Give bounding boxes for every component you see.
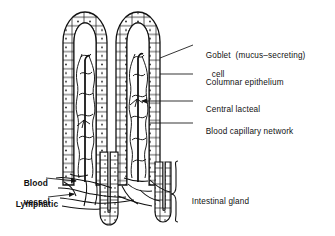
bracket-intestinal-gland (171, 161, 178, 222)
label-lymphatic-text: Lymphatic (16, 199, 58, 209)
label-goblet-cell-line1: Goblet (mucus–secreting) (206, 51, 306, 60)
label-central-lacteal-text: Central lacteal (206, 105, 261, 114)
label-columnar-epithelium: Columnar epithelium (196, 69, 284, 97)
label-blood-vessel-line1: Blood (24, 178, 48, 188)
label-intestinal-gland-text: Intestinal gland (192, 197, 249, 206)
label-blood-capillary-network: Blood capillary network (196, 118, 293, 146)
villus-right (116, 12, 160, 185)
leader-goblet-cell (160, 45, 193, 58)
crypt-center-lumen (108, 152, 110, 210)
intestinal-villi-diagram: Goblet (mucus–secreting) cell Columnar e… (0, 0, 335, 236)
intestinal-gland-center (100, 152, 118, 225)
crypt-right-lumen (163, 162, 165, 208)
label-columnar-epithelium-text: Columnar epithelium (206, 78, 284, 87)
label-blood-capillary-network-text: Blood capillary network (206, 127, 294, 136)
label-intestinal-gland: Intestinal gland (182, 188, 249, 216)
label-lymphatic: Lymphatic (6, 191, 58, 219)
